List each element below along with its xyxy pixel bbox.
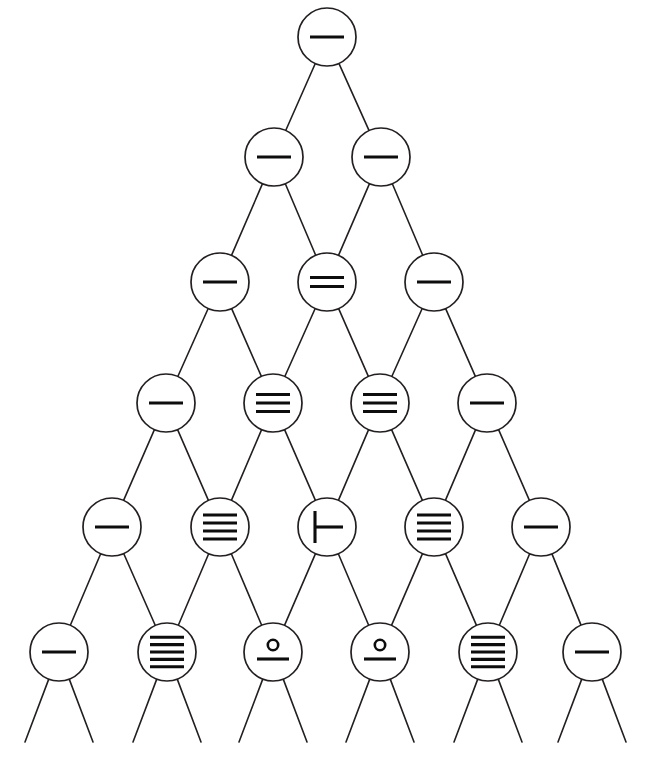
lattice-node[interactable] — [137, 374, 195, 432]
lattice-node[interactable] — [83, 498, 141, 556]
lattice-node[interactable] — [405, 253, 463, 311]
lattice-node[interactable] — [563, 623, 621, 681]
lattice-node[interactable] — [405, 498, 463, 556]
lattice-node[interactable] — [459, 623, 517, 681]
node-circle — [244, 623, 302, 681]
lattice-diagram — [0, 0, 652, 760]
lattice-node[interactable] — [298, 253, 356, 311]
node-circle — [405, 498, 463, 556]
lattice-node[interactable] — [351, 623, 409, 681]
lattice-node[interactable] — [191, 498, 249, 556]
lattice-node[interactable] — [298, 498, 356, 556]
lattice-node[interactable] — [245, 128, 303, 186]
lattice-node[interactable] — [351, 374, 409, 432]
node-circle — [191, 498, 249, 556]
lattice-node[interactable] — [30, 623, 88, 681]
lattice-node[interactable] — [244, 374, 302, 432]
lattice-node[interactable] — [512, 498, 570, 556]
lattice-node[interactable] — [138, 623, 196, 681]
lattice-node[interactable] — [244, 623, 302, 681]
lattice-node[interactable] — [352, 128, 410, 186]
lattice-node[interactable] — [191, 253, 249, 311]
node-circle — [351, 623, 409, 681]
lattice-node[interactable] — [298, 8, 356, 66]
lattice-node[interactable] — [458, 374, 516, 432]
diagram-background — [0, 0, 652, 760]
lattice-canvas — [0, 0, 652, 760]
node-circle — [298, 253, 356, 311]
